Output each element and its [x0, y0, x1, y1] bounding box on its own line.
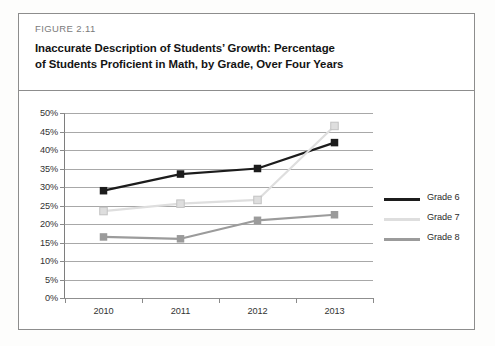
y-axis-label: 0% — [45, 293, 58, 303]
figure-title-line-2: of Students Proficient in Math, by Grade… — [35, 57, 455, 73]
y-axis-label: 40% — [40, 145, 58, 155]
y-axis-label: 5% — [45, 275, 58, 285]
x-axis-tick — [296, 298, 297, 303]
chart-body: 0%5%10%15%20%25%30%35%40%45%50% 20102011… — [19, 91, 474, 330]
y-axis-label: 20% — [40, 219, 58, 229]
legend-label: Grade 6 — [427, 192, 460, 202]
legend-item-grade-7[interactable]: Grade 7 — [384, 210, 470, 230]
x-axis-tick — [219, 298, 220, 303]
data-point-marker — [177, 170, 185, 178]
legend-swatch-icon — [384, 198, 420, 201]
legend-swatch-icon — [384, 218, 420, 221]
series-grade-7 — [100, 122, 339, 215]
y-axis-label: 35% — [40, 164, 58, 174]
data-point-marker — [331, 139, 339, 147]
legend-swatch-icon — [384, 238, 420, 241]
x-axis-tick — [65, 298, 66, 303]
data-point-marker — [177, 235, 185, 243]
plot-area: 0%5%10%15%20%25%30%35%40%45%50% 20102011… — [65, 113, 373, 298]
chart-legend: Grade 6Grade 7Grade 8 — [384, 190, 470, 250]
series-line — [104, 143, 335, 191]
data-point-marker — [254, 196, 262, 204]
figure-header: FIGURE 2.11 Inaccurate Description of St… — [19, 14, 474, 91]
legend-item-grade-6[interactable]: Grade 6 — [384, 190, 470, 210]
series-grade-6 — [100, 139, 339, 195]
figure-frame: FIGURE 2.11 Inaccurate Description of St… — [18, 13, 475, 330]
x-axis-tick — [142, 298, 143, 303]
series-line — [104, 126, 335, 211]
data-point-marker — [177, 200, 185, 208]
y-axis-label: 15% — [40, 238, 58, 248]
data-point-marker — [331, 211, 339, 219]
y-axis-label: 10% — [40, 256, 58, 266]
data-point-marker — [100, 187, 108, 195]
x-axis-label: 2013 — [324, 306, 344, 316]
x-axis-tick — [373, 298, 374, 303]
y-axis-label: 25% — [40, 201, 58, 211]
data-point-marker — [331, 122, 339, 130]
x-axis-label: 2010 — [93, 306, 113, 316]
figure-title: Inaccurate Description of Students’ Grow… — [35, 41, 455, 72]
data-point-marker — [254, 165, 262, 173]
legend-label: Grade 7 — [427, 212, 460, 222]
x-axis-label: 2011 — [171, 306, 190, 316]
series-layer — [65, 113, 373, 298]
y-axis-label: 45% — [40, 127, 58, 137]
series-line — [104, 215, 335, 239]
figure-number-label: FIGURE 2.11 — [35, 23, 96, 34]
figure-title-line-1: Inaccurate Description of Students’ Grow… — [35, 41, 455, 57]
legend-item-grade-8[interactable]: Grade 8 — [384, 230, 470, 250]
data-point-marker — [100, 207, 108, 215]
data-point-marker — [254, 217, 262, 225]
data-point-marker — [100, 233, 108, 241]
x-axis-label: 2012 — [247, 306, 267, 316]
series-grade-8 — [100, 211, 339, 243]
y-axis-label: 30% — [40, 182, 58, 192]
y-axis-label: 50% — [40, 108, 58, 118]
figure-root: FIGURE 2.11 Inaccurate Description of St… — [0, 0, 495, 346]
legend-label: Grade 8 — [427, 232, 460, 242]
